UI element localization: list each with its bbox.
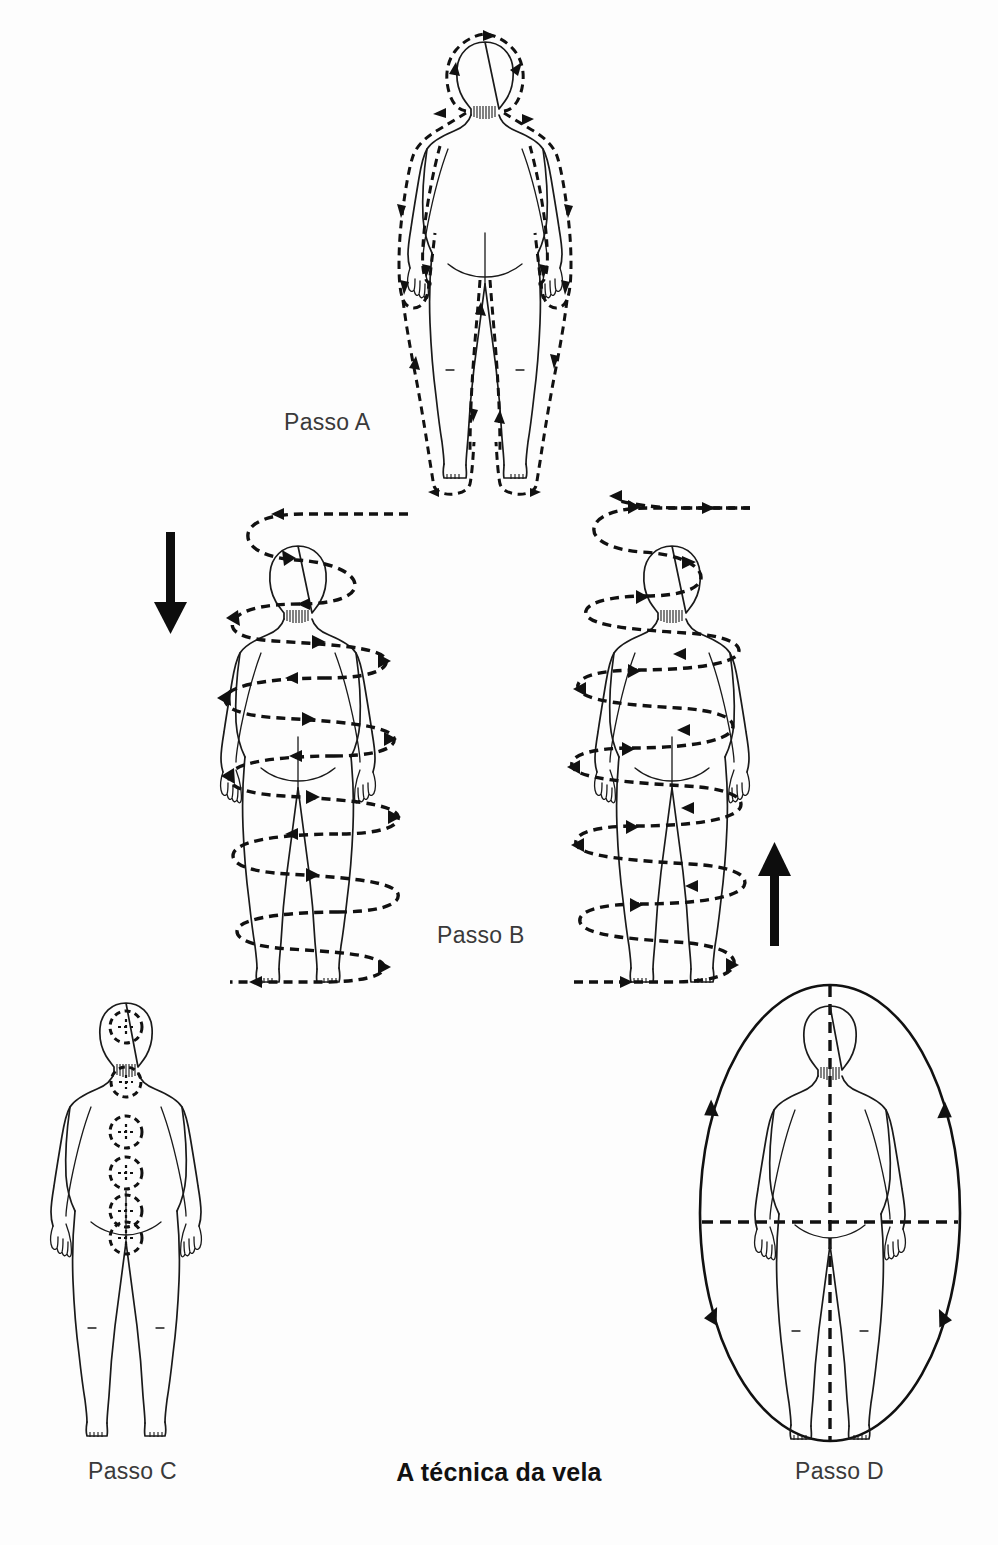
figure-passo-c: [20, 985, 240, 1435]
energy-flow-descending-helix: [225, 514, 408, 982]
figure-label-passo-a: Passo A: [284, 409, 371, 436]
ellipse-arrowheads-d: [701, 1099, 954, 1328]
flow-arrowheads-b-left: [217, 508, 401, 988]
direction-arrow-up: [758, 842, 791, 946]
body-outline-b-right: [595, 546, 750, 983]
figure-label-passo-b: Passo B: [437, 922, 525, 949]
diagram-page: Passo A: [0, 0, 998, 1545]
figure-passo-a: [370, 18, 600, 488]
passo-b-right-svg: [560, 490, 850, 990]
page-title: A técnica da vela: [0, 1458, 998, 1487]
energy-flow-ascending-helix: [572, 500, 750, 982]
passo-b-left-svg: [150, 498, 440, 988]
figure-passo-b-right: [560, 490, 850, 990]
figure-passo-b-left: [150, 498, 440, 988]
chakra-points-c: [110, 1011, 142, 1254]
passo-a-svg: [370, 18, 600, 488]
passo-d-svg: [690, 982, 970, 1444]
figure-passo-d: [690, 982, 970, 1444]
body-outline-c: [51, 1003, 202, 1437]
direction-arrow-down: [154, 532, 187, 634]
passo-c-svg: [20, 985, 240, 1435]
